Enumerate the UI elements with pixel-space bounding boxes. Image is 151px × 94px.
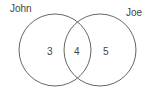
intersection-count: 4 [74,47,80,57]
john-only-count: 3 [47,47,53,57]
john-label: John [10,4,32,14]
joe-only-count: 5 [103,47,109,57]
joe-label: Joe [126,8,142,18]
john-circle [19,14,91,86]
